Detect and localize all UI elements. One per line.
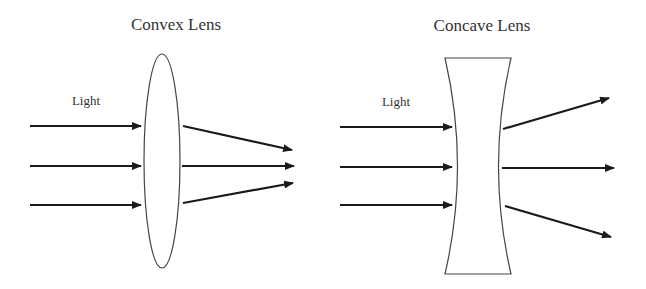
- lens-diagram-canvas: [0, 0, 646, 289]
- concave-outgoing-rays: [502, 98, 614, 237]
- convex-incoming-rays: [30, 126, 141, 205]
- convex-outgoing-ray-3-arrow-icon: [183, 183, 293, 203]
- concave-incoming-rays: [340, 127, 452, 205]
- convex-outgoing-ray-1-arrow-icon: [183, 126, 292, 150]
- concave-outgoing-ray-3-arrow-icon: [505, 206, 611, 237]
- concave-lens-group: [340, 58, 614, 274]
- convex-lens-shape: [144, 54, 180, 268]
- concave-lens-shape: [445, 58, 511, 274]
- convex-outgoing-rays: [182, 126, 294, 203]
- concave-outgoing-ray-1-arrow-icon: [503, 98, 609, 129]
- convex-lens-group: [30, 54, 294, 268]
